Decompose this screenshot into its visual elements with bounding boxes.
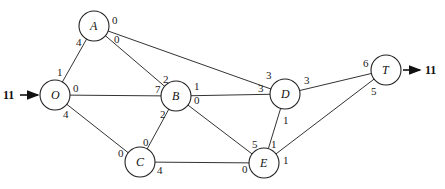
cap-DE-at-E: 1 [271,138,277,150]
outflow-label: 11 [425,63,436,77]
cap-BD-at-B: 1 [194,80,200,92]
cap-AB-at-A: 0 [114,33,120,45]
cap-OA-at-A: 4 [76,36,82,48]
cap-BC-at-B: 2 [160,108,166,120]
edge-O-B [55,95,176,96]
edge-A-D [94,26,285,94]
cap-OA-at-O: 1 [57,66,63,78]
edge-O-C [55,95,140,162]
node-T: T [371,55,401,85]
cap-OB-at-B: 7 [155,83,161,95]
cap-BC-at-C: 0 [143,136,149,148]
edge-B-D [176,94,285,96]
node-A: A [79,11,109,41]
edge-B-E [176,96,264,163]
node-O: O [40,80,70,110]
cap-BD-at-D: 3 [258,82,264,94]
edges [55,26,386,163]
node-E: E [249,148,279,178]
cap-ET-at-E: 1 [283,154,289,166]
node-C: C [125,147,155,177]
inflow-label: 11 [3,88,14,102]
cap-OB-at-O: 0 [73,82,79,94]
node-label-A: A [89,19,98,33]
flow-network-diagram: 11 11 O A B C D E T 1 4 0 7 4 0 0 2 0 3 [0,0,445,189]
node-label-B: B [172,89,180,103]
cap-DE-at-D: 1 [283,114,289,126]
cap-BE-at-B: 0 [194,94,200,106]
cap-AD-at-D: 3 [266,69,272,81]
node-label-D: D [280,87,290,101]
cap-AD-at-A: 0 [112,14,118,26]
cap-CE-at-E: 0 [242,163,248,175]
cap-OC-at-C: 0 [118,147,124,159]
node-D: D [270,79,300,109]
cap-CE-at-C: 4 [157,164,163,176]
node-label-C: C [136,155,145,169]
node-label-E: E [259,156,268,170]
cap-DT-at-D: 3 [304,74,310,86]
node-B: B [161,81,191,111]
cap-DT-at-T: 6 [363,57,369,69]
cap-OC-at-O: 4 [63,108,69,120]
cap-AB-at-B: 2 [163,73,169,85]
node-label-O: O [51,88,60,102]
cap-ET-at-T: 5 [371,85,377,97]
edge-A-B [94,26,176,96]
cap-BE-at-E: 5 [252,138,258,150]
